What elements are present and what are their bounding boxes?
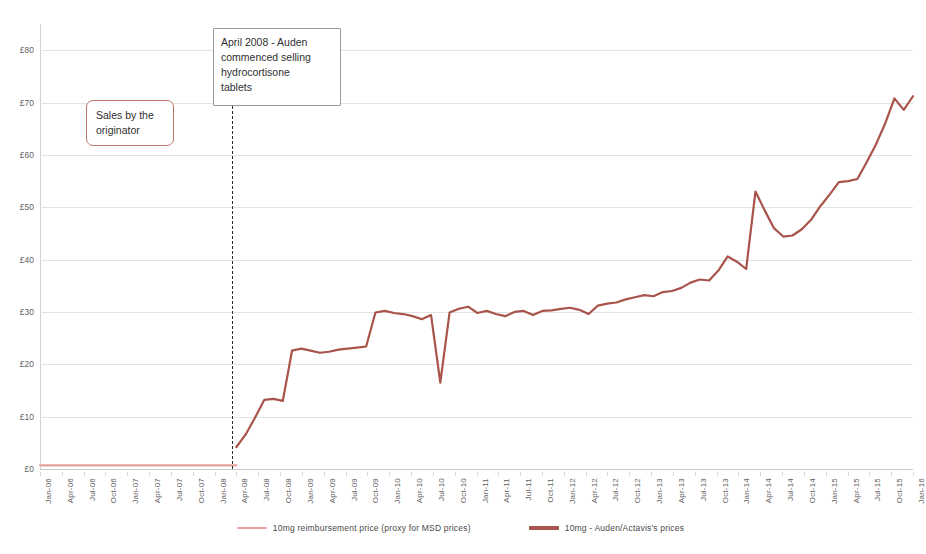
x-axis-tick (236, 472, 237, 476)
x-axis-tick-label: Jan-14 (742, 478, 751, 504)
x-axis-tick-label: Jul-11 (524, 478, 533, 500)
x-axis-tick (586, 472, 587, 476)
gridline (40, 469, 913, 470)
y-axis-tick-label: £0 (25, 464, 34, 474)
x-axis-tick (760, 472, 761, 476)
annotation-line: hydrocortisone (221, 65, 333, 80)
x-axis-tick (433, 472, 434, 476)
x-axis-tick (542, 472, 543, 476)
x-axis-tick (804, 472, 805, 476)
x-axis-tick-label: Jul-10 (437, 478, 446, 501)
annotation-line: April 2008 - Auden (221, 35, 333, 50)
x-axis-tick-label: Apr-09 (328, 478, 337, 503)
x-axis-tick (193, 472, 194, 476)
x-axis-tick-label: Apr-08 (240, 478, 249, 503)
annotation-sales-by-originator: Sales by the originator (86, 100, 174, 146)
x-axis-tick (564, 472, 565, 476)
x-axis-tick (826, 472, 827, 476)
x-axis-tick-label: Oct-15 (895, 478, 904, 503)
x-axis-tick (477, 472, 478, 476)
x-axis-tick (848, 472, 849, 476)
x-axis-tick-label: Oct-13 (721, 478, 730, 503)
x-axis-tick-label: Apr-14 (764, 478, 773, 503)
x-axis-tick (673, 472, 674, 476)
y-axis-tick-label: £60 (20, 150, 34, 160)
x-axis-tick (62, 472, 63, 476)
x-axis-tick-label: Oct-06 (109, 478, 118, 503)
series-line-auden-actavis (236, 96, 913, 447)
y-axis-tick-label: £30 (20, 307, 34, 317)
x-axis-tick-label: Jan-11 (481, 478, 490, 503)
x-axis-tick-label: Jan-10 (393, 478, 402, 504)
x-axis-tick-label: Jul-15 (873, 478, 882, 501)
annotation-april-2008-event: April 2008 - Auden commenced selling hyd… (213, 28, 341, 106)
plot-area (40, 24, 913, 469)
x-axis-tick (40, 472, 41, 476)
x-axis-tick-label: Jan-09 (306, 478, 315, 504)
x-axis-tick (891, 472, 892, 476)
y-axis-tick-label: £10 (20, 412, 34, 422)
y-axis-tick-label: £50 (20, 202, 34, 212)
x-axis-tick (913, 472, 914, 476)
legend-item-auden-actavis[interactable]: 10mg - Auden/Actavis's prices (529, 523, 684, 533)
y-axis-tick-label: £40 (20, 255, 34, 265)
chart-legend: 10mg reimbursement price (proxy for MSD … (0, 523, 921, 533)
y-axis-tick-label: £70 (20, 98, 34, 108)
x-axis-tick (782, 472, 783, 476)
x-axis-tick (520, 472, 521, 476)
x-axis-tick-label: Jan-15 (830, 478, 839, 504)
y-axis-tick-label: £20 (20, 359, 34, 369)
y-axis-tick-label: £80 (20, 45, 34, 55)
x-axis-tick-label: Oct-09 (371, 478, 380, 503)
series-container (40, 24, 913, 469)
x-axis-tick-label: Apr-13 (677, 478, 686, 503)
x-axis-tick-label: Apr-12 (590, 478, 599, 503)
x-axis-tick (498, 472, 499, 476)
x-axis-tick-label: Apr-10 (415, 478, 424, 503)
x-axis-tick-label: Jul-08 (262, 478, 271, 501)
x-axis-tick (258, 472, 259, 476)
x-axis-tick (84, 472, 85, 476)
x-axis-tick-label: Jul-07 (175, 478, 184, 501)
x-axis-tick-label: Apr-07 (153, 478, 162, 503)
x-axis-tick (324, 472, 325, 476)
x-axis-tick (127, 472, 128, 476)
annotation-line: Sales by the (96, 108, 164, 123)
legend-label: 10mg reimbursement price (proxy for MSD … (273, 523, 471, 533)
x-axis-tick-label: Jul-09 (350, 478, 359, 501)
x-axis-tick-label: Apr-06 (66, 478, 75, 503)
x-axis-tick-label: Jul-13 (699, 478, 708, 501)
x-axis-tick-label: Jan-08 (219, 478, 228, 504)
x-axis-tick-label: Jan-13 (655, 478, 664, 504)
annotation-line: commenced selling (221, 50, 333, 65)
x-axis-tick (738, 472, 739, 476)
x-axis-tick (346, 472, 347, 476)
x-axis-tick-label: Oct-14 (808, 478, 817, 503)
y-axis-labels: £0£10£20£30£40£50£60£70£80 (0, 24, 36, 469)
x-axis-tick (717, 472, 718, 476)
x-axis-tick-label: Apr-11 (502, 478, 511, 503)
x-axis-tick-label: Oct-10 (459, 478, 468, 503)
x-axis-tick (389, 472, 390, 476)
x-axis-tick-label: Oct-08 (284, 478, 293, 503)
annotation-line: originator (96, 123, 164, 138)
x-axis-tick (149, 472, 150, 476)
x-axis-tick-label: Apr-15 (852, 478, 861, 503)
legend-swatch-icon (237, 527, 267, 529)
x-axis-tick (869, 472, 870, 476)
x-axis-tick-label: Jul-14 (786, 478, 795, 501)
x-axis-tick (695, 472, 696, 476)
x-axis-tick-label: Jan-06 (44, 478, 53, 504)
x-axis-tick (302, 472, 303, 476)
x-axis-tick (171, 472, 172, 476)
legend-item-reimbursement[interactable]: 10mg reimbursement price (proxy for MSD … (237, 523, 471, 533)
x-axis-tick-label: Jan-07 (131, 478, 140, 504)
x-axis-tick (367, 472, 368, 476)
x-axis-tick-label: Jan-12 (568, 478, 577, 504)
x-axis-tick (455, 472, 456, 476)
legend-label: 10mg - Auden/Actavis's prices (565, 523, 684, 533)
annotation-line: tablets (221, 80, 333, 95)
x-axis-tick (651, 472, 652, 476)
x-axis-tick (411, 472, 412, 476)
